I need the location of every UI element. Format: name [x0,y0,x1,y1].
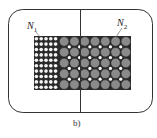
interstitial-gap [88,45,91,48]
n2-conductor [90,37,99,46]
interstitial-gap [109,78,112,81]
n1-conductor [39,53,43,57]
n2-conductor [90,58,99,67]
interstitial-gap [109,56,112,59]
n2-conductor [59,80,68,89]
n2-conductor [111,58,120,67]
n1-conductor [35,58,39,62]
interstitial-gap [119,67,122,70]
interstitial-gap [68,67,71,70]
n2-label: N2 [117,18,127,31]
n1-conductor [39,85,43,89]
n2-conductor [111,69,120,78]
n1-conductor [54,64,58,68]
n1-conductor [54,75,58,79]
n1-conductor [44,53,48,57]
n1-conductor [44,85,48,89]
n1-conductor [39,42,43,46]
interstitial-gap [99,45,102,48]
n1-conductor [35,85,39,89]
n1-conductor [39,75,43,79]
n1-conductor [49,85,53,89]
interstitial-gap [68,78,71,81]
n2-conductor [90,80,99,89]
n1-conductor [35,48,39,52]
n2-conductor [59,37,68,46]
interstitial-gap [119,56,122,59]
n1-conductor [49,53,53,57]
n2-conductor [90,47,99,56]
n1-conductor [44,37,48,41]
interstitial-gap [88,56,91,59]
n1-conductor [54,37,58,41]
n2-conductor [70,47,79,56]
n1-conductor [49,75,53,79]
n1-conductor [44,42,48,46]
n1-conductor [54,58,58,62]
n2-conductor [111,47,120,56]
n1-conductor [39,37,43,41]
n2-conductor [59,47,68,56]
n2-conductor [80,47,89,56]
figure-caption: b) [73,118,81,128]
n2-conductor [70,80,79,89]
n2-conductor [101,58,110,67]
n2-conductor [80,37,89,46]
n2-conductor [101,47,110,56]
n1-conductor [35,37,39,41]
n2-conductor [121,69,130,78]
interstitial-gap [88,67,91,70]
n1-conductor [44,69,48,73]
n2-conductor [80,80,89,89]
n2-conductor [80,69,89,78]
n2-conductor [101,80,110,89]
n1-conductor [35,64,39,68]
n1-label: N1 [27,21,37,34]
n1-conductor [44,80,48,84]
interstitial-gap [68,45,71,48]
n2-conductor [90,69,99,78]
n2-conductor [111,80,120,89]
n1-conductor [44,58,48,62]
interstitial-gap [99,56,102,59]
n2-conductor [59,69,68,78]
interstitial-gap [88,78,91,81]
n1-conductor [35,75,39,79]
interstitial-gap [68,56,71,59]
n1-conductor [44,64,48,68]
interstitial-gap [119,45,122,48]
n1-conductor [54,69,58,73]
n1-conductor [35,80,39,84]
n2-conductor [121,80,130,89]
n1-conductor [35,42,39,46]
n1-conductor [54,80,58,84]
n2-conductor [111,37,120,46]
n2-conductor [121,58,130,67]
n1-conductor [49,64,53,68]
n1-conductor [49,69,53,73]
n2-conductor [59,58,68,67]
n1-conductor [54,42,58,46]
n2-conductor [101,37,110,46]
n2-conductor [70,37,79,46]
n1-conductor [35,53,39,57]
n1-conductor [54,53,58,57]
n2-conductor [101,69,110,78]
winding-block [34,36,131,90]
n1-conductor [54,85,58,89]
n1-conductor [49,58,53,62]
n2-conductor [70,58,79,67]
n1-conductor [49,37,53,41]
n1-conductor [35,69,39,73]
n2-conductor [121,47,130,56]
n1-conductor [39,64,43,68]
interstitial-gap [99,78,102,81]
interstitial-gap [109,67,112,70]
n1-conductor [49,48,53,52]
n1-conductor [49,42,53,46]
n1-conductor [44,75,48,79]
n2-conductor [121,37,130,46]
n1-conductor [39,48,43,52]
n2-conductor [80,58,89,67]
n1-conductor [49,80,53,84]
